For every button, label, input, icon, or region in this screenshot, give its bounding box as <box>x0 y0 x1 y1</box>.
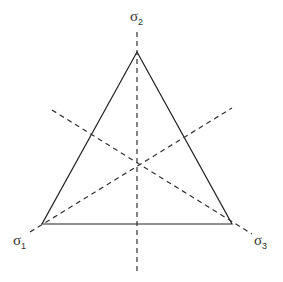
stress-triangle-diagram <box>0 0 283 282</box>
label-sigma2: σ2 <box>130 8 143 27</box>
label-sigma1: σ1 <box>13 232 26 251</box>
axis-sigma3 <box>52 110 252 234</box>
label-sigma3: σ3 <box>254 232 267 251</box>
